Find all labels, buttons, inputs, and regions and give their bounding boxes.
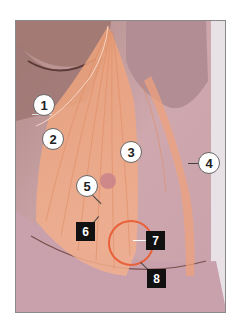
anatomy-photo <box>15 20 226 313</box>
label-5: 5 <box>76 175 98 197</box>
label-2: 2 <box>42 128 64 150</box>
label-6: 6 <box>76 222 95 241</box>
leader-line-7 <box>133 240 147 241</box>
label-8: 8 <box>147 269 166 288</box>
label-3: 3 <box>120 141 142 163</box>
label-1: 1 <box>33 94 55 116</box>
photo-illustration <box>16 21 226 313</box>
label-7: 7 <box>146 231 165 250</box>
label-4: 4 <box>198 152 220 174</box>
